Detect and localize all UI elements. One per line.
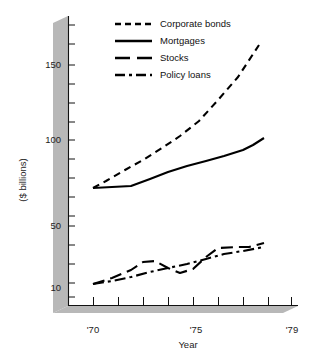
x-tick-label-79: '79 [286, 324, 298, 335]
y-axis-ticks [69, 25, 76, 297]
x-axis: '70 '75 '79 Year [68, 297, 298, 350]
x-axis-ticks [94, 297, 292, 306]
series-line-corporate-bonds [93, 45, 259, 188]
series-line-stocks [93, 243, 264, 284]
chart-container: 150 100 50 10 ($ billions) '70 '75 '79 Y… [0, 0, 314, 354]
x-tick-label-75: '75 [190, 324, 202, 335]
y-tick-label-10: 10 [50, 282, 61, 293]
legend-label-corporate-bonds: Corporate bonds [160, 18, 231, 29]
x-axis-title: Year [178, 339, 197, 350]
x-tick-label-70: '70 [87, 324, 99, 335]
series-line-policy-loans [93, 247, 264, 284]
y-tick-label-150: 150 [45, 59, 61, 70]
y-tick-label-50: 50 [50, 220, 61, 231]
y-axis-title: ($ billions) [17, 158, 28, 201]
legend-label-mortgages: Mortgages [160, 35, 205, 46]
chart-legend: Corporate bonds Mortgages Stocks Policy … [115, 18, 231, 80]
series-line-mortgages [93, 138, 264, 188]
legend-label-stocks: Stocks [160, 52, 189, 63]
legend-label-policy-loans: Policy loans [160, 69, 211, 80]
y-tick-label-100: 100 [45, 134, 61, 145]
plot-area [93, 45, 264, 284]
